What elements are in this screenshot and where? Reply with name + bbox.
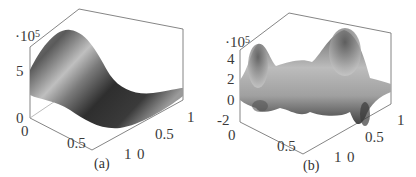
y-tick-1: 1 — [187, 110, 195, 125]
plot-b-canvas — [200, 0, 416, 177]
x-tick-0: 0 — [21, 124, 29, 139]
y-tick-0.5: 0.5 — [155, 127, 174, 142]
surface-plot-b: ·105 4 2 0 -2 0 0.5 1 0 0.5 1 (b) — [200, 0, 408, 177]
z-tick-2: 2 — [227, 72, 235, 87]
y-tick-1: 1 — [397, 113, 405, 128]
panel-label-a: (a) — [94, 156, 110, 172]
y-tick-0: 0 — [137, 147, 145, 162]
x-tick-0.5: 0.5 — [277, 139, 296, 154]
z-tick-5: 5 — [16, 64, 24, 79]
z-tick-4: 4 — [227, 52, 235, 67]
z-tick-neg2: -2 — [217, 113, 230, 128]
x-tick-1: 1 — [124, 147, 132, 162]
z-tick-0: 0 — [227, 93, 235, 108]
plot-a-canvas — [0, 0, 208, 177]
x-tick-0: 0 — [228, 128, 236, 143]
x-tick-1: 1 — [334, 150, 342, 165]
surface-plot-a: ·105 5 0 0 0.5 1 0 0.5 1 (a) — [0, 0, 208, 177]
z-multiplier-b: ·105 — [225, 35, 250, 50]
surface-a — [30, 30, 183, 128]
x-tick-0.5: 0.5 — [67, 136, 86, 151]
y-tick-0.5: 0.5 — [365, 130, 384, 145]
z-multiplier-a: ·105 — [15, 29, 40, 44]
panel-label-b: (b) — [303, 158, 319, 174]
y-tick-0: 0 — [347, 150, 355, 165]
